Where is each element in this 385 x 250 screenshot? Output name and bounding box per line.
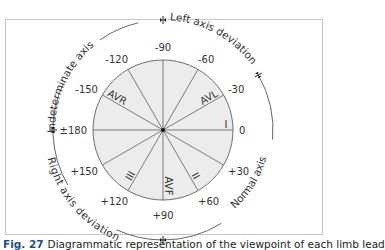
center-dot: [161, 128, 165, 132]
degree-label: +120: [101, 196, 128, 207]
degree-label: -150: [75, 84, 98, 95]
degree-label: ±180: [60, 125, 87, 136]
left-axis-deviation-label: Left axis deviation: [170, 10, 260, 66]
degree-label: +90: [152, 210, 173, 221]
arrow-icon: [160, 18, 163, 22]
degree-label: +30: [228, 166, 249, 177]
arrow-icon: [164, 18, 167, 22]
degree-label: -90: [155, 42, 171, 53]
degree-label: +150: [71, 166, 98, 177]
axis-arc: [100, 23, 138, 40]
arrow-icon: [255, 71, 258, 74]
lead-label: AVF: [163, 177, 174, 196]
lead-label: I: [225, 119, 228, 130]
degree-label: -30: [228, 84, 244, 95]
normal-axis-label: Normal axis: [228, 155, 268, 211]
degree-label: +60: [198, 196, 219, 207]
axis-arc: [258, 75, 273, 140]
figure-number: Fig. 27: [3, 238, 44, 250]
figure-caption: Fig. 27Diagrammatic representation of th…: [3, 238, 385, 250]
lead-wheel: [93, 60, 233, 200]
caption-text: Diagrammatic representation of the viewp…: [48, 238, 385, 250]
degree-label: -60: [198, 54, 214, 65]
degree-label: -120: [105, 54, 128, 65]
degree-label: 0: [239, 125, 245, 136]
